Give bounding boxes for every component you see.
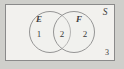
intersection-count: 2 <box>60 29 65 39</box>
universal-set-label: S <box>103 7 108 17</box>
venn-diagram-figure: S E F 1 2 2 3 <box>0 0 124 69</box>
set-f-label: F <box>75 14 82 24</box>
set-f-only-count: 2 <box>83 29 88 39</box>
set-e-label: E <box>35 14 42 24</box>
venn-diagram-canvas: S E F 1 2 2 3 <box>0 0 124 69</box>
set-e-only-count: 1 <box>37 29 42 39</box>
outside-sets-count: 3 <box>105 48 109 57</box>
